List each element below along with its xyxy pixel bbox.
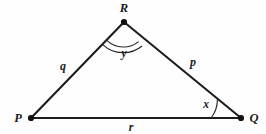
vertex-label-Q: Q	[249, 111, 258, 125]
side-label-q: q	[60, 59, 66, 73]
angle-label-x: x	[202, 98, 209, 110]
vertex-labels: R P Q	[14, 1, 258, 125]
geometry-diagram-canvas: R P Q q p r y x	[0, 0, 266, 134]
vertex-label-P: P	[14, 111, 22, 125]
side-label-p: p	[189, 55, 196, 69]
side-label-r: r	[129, 120, 134, 134]
vertex-label-R: R	[119, 1, 128, 15]
side-q-line-PR	[31, 22, 124, 118]
vertex-dot-P	[28, 115, 34, 121]
angle-x-arc	[211, 99, 217, 118]
side-p-line-RQ	[124, 22, 241, 118]
angle-label-y: y	[119, 47, 127, 60]
triangle-pqr-figure: R P Q q p r y x	[0, 0, 266, 134]
vertex-dot-Q	[238, 115, 244, 121]
vertex-dot-R	[121, 19, 127, 25]
